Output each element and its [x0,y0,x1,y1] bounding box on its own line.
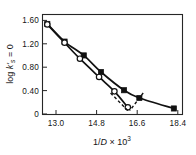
x-axis-title-suffix: × 10 [107,137,127,147]
x-tick-labels: 13.0 14.8 16.6 18.4 [48,119,187,128]
x-tick-label: 14.8 [88,119,105,128]
data-point-open-circle [62,40,67,45]
y-axis-ticks [43,20,48,114]
y-axis-title-prefix: log [5,69,15,84]
plot-frame [43,15,183,115]
y-tick-label: 0.80 [22,63,39,72]
x-tick-label: 18.4 [169,119,186,128]
data-point-filled-square [171,106,176,111]
y-axis-title: log k's = 0 [5,44,16,83]
figure-container: 1.60 1.20 0.80 0.40 0 13.0 14.8 16.6 18.… [0,0,196,155]
y-tick-label: 1.20 [22,40,39,49]
y-tick-labels: 1.60 1.20 0.80 0.40 0 [22,16,39,119]
y-tick-label: 1.60 [22,16,39,25]
data-point-open-circle [45,22,50,27]
svg-text:1/D × 103: 1/D × 103 [93,135,131,147]
x-axis-title-exponent: 3 [127,135,131,142]
data-point-filled-square [121,88,126,93]
series-filled-square-series [45,21,177,111]
y-axis-title-suffix: = 0 [5,44,15,59]
x-tick-label: 16.6 [129,119,146,128]
chart-plot: 1.60 1.20 0.80 0.40 0 13.0 14.8 16.6 18.… [0,0,196,155]
data-point-open-circle [77,56,82,61]
x-axis-ticks [56,110,178,115]
series-open-circle-series [45,22,131,110]
y-tick-label: 0 [34,110,39,119]
x-axis-title: 1/D × 103 [93,135,131,147]
x-tick-label: 13.0 [48,119,65,128]
data-series-layer [45,21,177,111]
series-line [47,24,128,107]
svg-text:log k's = 0: log k's = 0 [5,44,16,83]
y-tick-label: 0.40 [22,87,39,96]
data-point-open-circle [96,74,101,79]
series-line [47,24,174,109]
data-point-open-circle [112,89,117,94]
